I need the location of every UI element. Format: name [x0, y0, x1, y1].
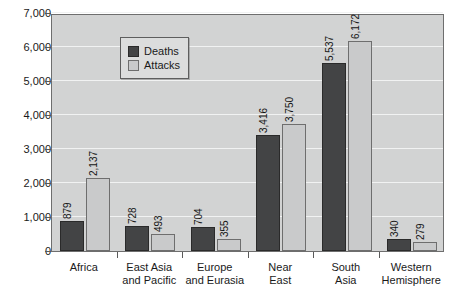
x-axis-category-line: Hemisphere: [379, 274, 445, 287]
x-axis-category-line: East: [248, 274, 314, 287]
bar-attacks[interactable]: 355: [217, 239, 241, 251]
bar-value-label: 704: [194, 208, 204, 225]
x-axis-category-line: Western: [379, 261, 445, 274]
bar-value-label: 493: [154, 216, 164, 233]
attacks-swatch: [128, 60, 139, 71]
bar-value-label: 6,172: [351, 14, 361, 39]
gridline: [52, 182, 443, 183]
bar-deaths[interactable]: 704: [191, 227, 215, 251]
gridline: [52, 46, 443, 47]
x-axis-category-label: East Asiaand Pacific: [117, 261, 183, 287]
legend: DeathsAttacks: [120, 37, 189, 79]
x-axis-category-line: Europe: [182, 261, 248, 274]
x-axis-category-label: NearEast: [248, 261, 314, 287]
gridline: [52, 148, 443, 149]
bar-group: 340279: [387, 15, 437, 251]
legend-item[interactable]: Deaths: [128, 44, 180, 58]
bar-value-label: 5,537: [325, 36, 335, 61]
x-axis-tick-mark: [117, 252, 118, 258]
bar-attacks[interactable]: 3,750: [282, 124, 306, 252]
bar-value-label: 279: [416, 223, 426, 240]
bar-deaths[interactable]: 879: [60, 221, 84, 251]
plot-area: 8792,1377284937043553,4163,7505,5376,172…: [51, 14, 444, 252]
x-axis-category-line: Near: [248, 261, 314, 274]
bar-group: 8792,137: [60, 15, 110, 251]
x-axis-tick-mark: [182, 252, 183, 258]
x-axis-tick-mark: [313, 252, 314, 258]
x-axis-tick-mark: [248, 252, 249, 258]
x-axis-category-label: SouthAsia: [313, 261, 379, 287]
bar-value-label: 3,416: [259, 108, 269, 133]
x-axis-category-line: and Eurasia: [182, 274, 248, 287]
gridline: [52, 12, 443, 13]
gridline: [52, 216, 443, 217]
bar-group: 704355: [191, 15, 241, 251]
bar-deaths[interactable]: 728: [125, 226, 149, 251]
bar-value-label: 355: [220, 220, 230, 237]
bar-deaths[interactable]: 3,416: [256, 135, 280, 251]
bar-attacks[interactable]: 493: [151, 234, 175, 251]
bar-attacks[interactable]: 6,172: [348, 41, 372, 251]
bar-deaths[interactable]: 5,537: [322, 63, 346, 251]
bar-attacks[interactable]: 2,137: [86, 178, 110, 251]
bar-group: 5,5376,172: [322, 15, 372, 251]
bar-deaths[interactable]: 340: [387, 239, 411, 251]
legend-item-label: Attacks: [144, 59, 180, 71]
bar-group: 3,4163,750: [256, 15, 306, 251]
y-axis: 01,0002,0003,0004,0005,0006,0007,000: [0, 14, 51, 252]
gridline: [52, 80, 443, 81]
bar-value-label: 340: [390, 221, 400, 238]
bar-chart: 01,0002,0003,0004,0005,0006,0007,000 879…: [0, 0, 456, 294]
deaths-swatch: [128, 46, 139, 57]
bar-value-label: 3,750: [285, 96, 295, 121]
gridline: [52, 114, 443, 115]
x-axis-tick-mark: [379, 252, 380, 258]
bar-value-label: 2,137: [89, 151, 99, 176]
bar-attacks[interactable]: 279: [413, 242, 437, 251]
x-axis-category-line: Asia: [313, 274, 379, 287]
bar-value-label: 728: [128, 208, 138, 225]
x-axis-category-line: South: [313, 261, 379, 274]
legend-item[interactable]: Attacks: [128, 58, 180, 72]
x-axis-category-line: East Asia: [117, 261, 183, 274]
legend-item-label: Deaths: [144, 45, 179, 57]
x-axis-category-label: WesternHemisphere: [379, 261, 445, 287]
x-axis-category-label: Africa: [51, 261, 117, 274]
x-axis-category-line: Africa: [51, 261, 117, 274]
x-axis-category-label: Europeand Eurasia: [182, 261, 248, 287]
x-axis-category-line: and Pacific: [117, 274, 183, 287]
bar-value-label: 879: [63, 202, 73, 219]
